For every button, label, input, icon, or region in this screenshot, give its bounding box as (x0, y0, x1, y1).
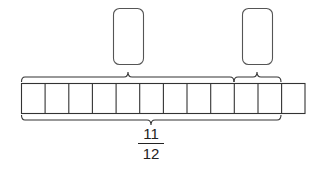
tape-cells (22, 84, 306, 114)
bottom-brace (22, 115, 282, 125)
fraction-denominator: 12 (138, 146, 164, 161)
answer-box-right[interactable] (243, 9, 273, 65)
fraction-numerator: 11 (138, 126, 164, 142)
top-brace-right (234, 72, 281, 82)
answer-box-left[interactable] (114, 9, 144, 65)
fraction-bar (138, 143, 164, 144)
top-brace-left (22, 72, 235, 82)
fraction-label: 11 12 (138, 126, 164, 161)
